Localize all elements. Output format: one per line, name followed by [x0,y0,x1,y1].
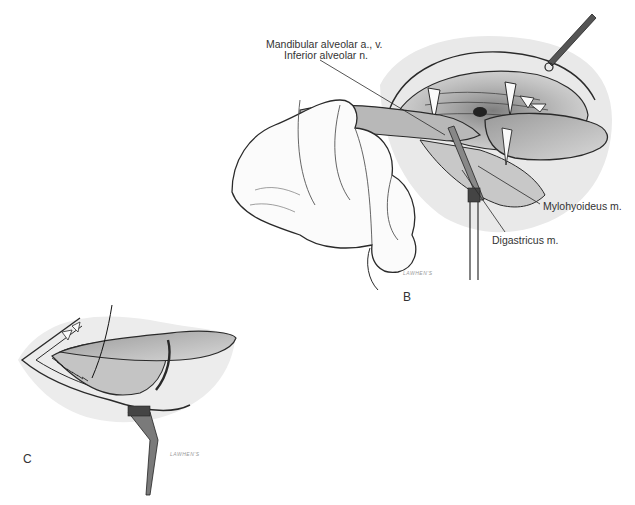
artist-signature-c: LAWHEN'S [170,451,200,457]
surgical-illustration [0,0,635,505]
panel-letter-b: B [403,290,411,304]
label-digastricus: Digastricus m. [492,234,559,246]
panel-letter-c: C [23,452,32,466]
label-mylohyoideus: Mylohyoideus m. [543,200,622,212]
artist-signature-b: LAWHEN'S [403,270,433,276]
panel-c-drawing [18,305,236,495]
label-inferior-alveolar: Inferior alveolar n. [284,49,368,61]
